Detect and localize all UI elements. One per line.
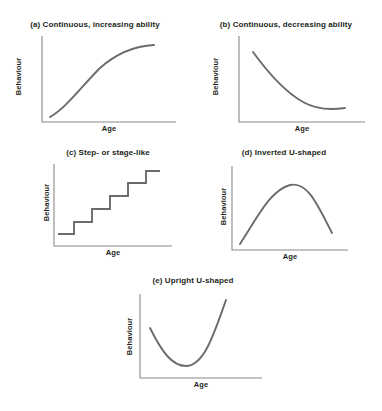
- panel-d-plot: Behaviour Age: [214, 158, 354, 266]
- panel-a: (a) Continuous, increasing ability Behav…: [8, 20, 182, 136]
- panel-e: (e) Upright U-shaped Behaviour Age: [118, 276, 268, 396]
- panel-a-title: (a) Continuous, increasing ability: [8, 20, 182, 30]
- panel-c-title: (c) Step- or stage-like: [38, 148, 178, 158]
- panel-d: (d) Inverted U-shaped Behaviour Age: [214, 148, 354, 266]
- panel-b-axes: [239, 36, 365, 122]
- panel-e-xlabel: Age: [140, 380, 262, 389]
- panel-b-plot: Behaviour Age: [199, 30, 373, 136]
- panel-a-ylabel: Behaviour: [14, 49, 23, 105]
- panel-d-svg: [214, 158, 354, 266]
- panel-a-svg: [8, 30, 182, 136]
- panel-b-xlabel: Age: [239, 124, 365, 133]
- panel-b-title: (b) Continuous, decreasing ability: [199, 20, 373, 30]
- panel-b-svg: [199, 30, 373, 136]
- panel-c: (c) Step- or stage-like Behaviour Age: [38, 148, 178, 262]
- panel-d-axes: [232, 166, 348, 250]
- panel-d-ylabel: Behaviour: [219, 179, 228, 235]
- figure-developmental-trajectories: (a) Continuous, increasing ability Behav…: [0, 0, 382, 411]
- panel-e-curve: [150, 300, 226, 366]
- panel-d-xlabel: Age: [232, 252, 348, 261]
- panel-b-curve: [253, 52, 345, 109]
- panel-e-plot: Behaviour Age: [118, 286, 268, 396]
- panel-c-svg: [38, 158, 178, 262]
- panel-a-curve: [50, 45, 154, 117]
- panel-d-curve: [240, 185, 332, 244]
- panel-c-xlabel: Age: [54, 248, 172, 257]
- panel-c-step-curve: [58, 171, 160, 234]
- panel-a-xlabel: Age: [42, 124, 176, 133]
- panel-b: (b) Continuous, decreasing ability Behav…: [199, 20, 373, 136]
- panel-c-ylabel: Behaviour: [42, 175, 51, 231]
- panel-d-title: (d) Inverted U-shaped: [214, 148, 354, 158]
- panel-a-plot: Behaviour Age: [8, 30, 182, 136]
- panel-b-ylabel: Behaviour: [211, 49, 220, 105]
- panel-c-plot: Behaviour Age: [38, 158, 178, 262]
- panel-e-ylabel: Behaviour: [125, 309, 134, 365]
- panel-e-title: (e) Upright U-shaped: [118, 276, 268, 286]
- panel-e-axes: [140, 294, 262, 378]
